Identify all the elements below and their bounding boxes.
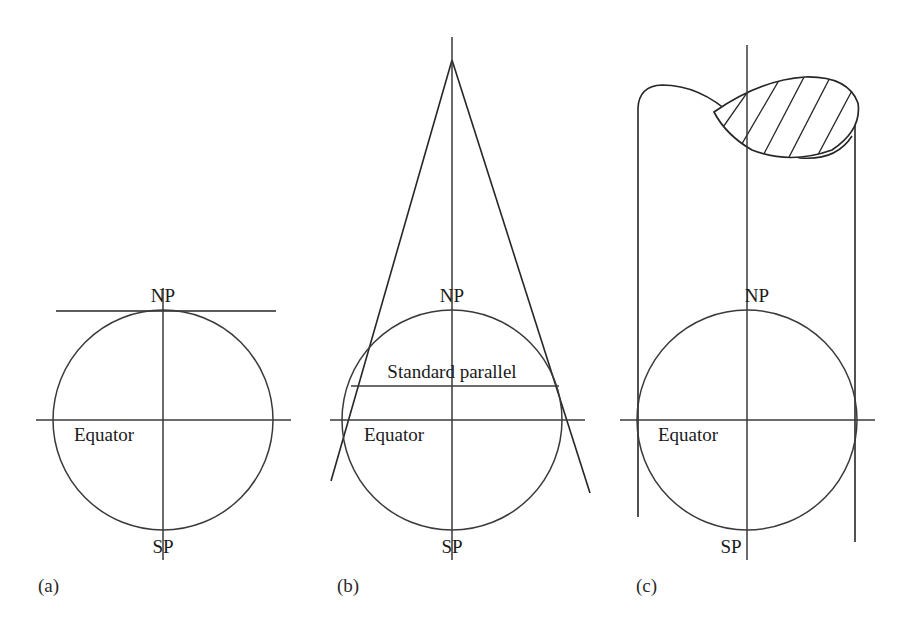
np-label-c: NP <box>745 285 769 306</box>
np-label-a: NP <box>151 285 175 306</box>
equator-label-b: Equator <box>364 424 425 445</box>
np-label-b: NP <box>440 285 464 306</box>
sp-label-c: SP <box>720 536 741 557</box>
panel-label-c: (c) <box>636 575 657 597</box>
sp-label-b: SP <box>441 536 462 557</box>
cylinder-top-cap-c <box>714 77 858 158</box>
panel-c-group: NP SP Equator (c) <box>620 45 890 597</box>
cone-left-slant-b <box>331 60 452 481</box>
panel-label-b: (b) <box>337 575 359 597</box>
equator-label-c: Equator <box>658 424 719 445</box>
panel-label-a: (a) <box>38 575 59 597</box>
sp-label-a: SP <box>152 536 173 557</box>
standard-parallel-label-b: Standard parallel <box>387 361 516 382</box>
cone-right-slant-b <box>452 60 590 493</box>
equator-label-a: Equator <box>74 424 135 445</box>
panel-b-group: NP SP Standard parallel Equator (b) <box>330 37 590 597</box>
cylinder-left-wall-c <box>638 85 747 517</box>
panel-a-group: NP SP Equator (a) <box>36 285 291 597</box>
projection-surfaces-figure: NP SP Equator (a) NP SP Standard paralle… <box>0 0 905 628</box>
diagram-canvas: NP SP Equator (a) NP SP Standard paralle… <box>0 0 905 628</box>
